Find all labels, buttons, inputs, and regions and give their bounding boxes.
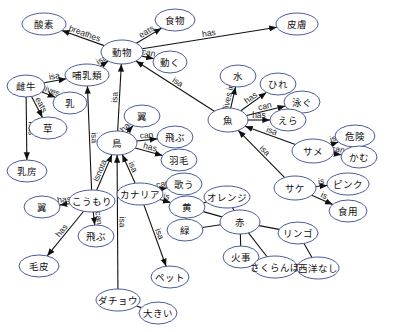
node-label: かむ	[349, 152, 369, 163]
node-label: 危険	[345, 131, 365, 142]
node-label: 食物	[165, 15, 185, 26]
edge-label: has	[201, 27, 216, 39]
node-kamu: かむ	[341, 146, 377, 168]
node-label: 飛ぶ	[86, 231, 106, 242]
node-pinku: ピンク	[327, 173, 369, 195]
node-koumori: こうもり	[69, 190, 115, 212]
node-label: さくらんぼ	[250, 262, 300, 273]
node-label: サケ	[285, 183, 305, 194]
edge-label: isa	[153, 227, 166, 241]
edge-label: isa	[109, 91, 120, 103]
node-label: ピンク	[333, 179, 363, 190]
node-dachou: ダチョウ	[96, 289, 140, 311]
edge-label: isnota	[91, 158, 109, 183]
node-label: 水	[233, 71, 243, 82]
node-kanaria: カナリア	[117, 183, 163, 205]
node-label: ひれ	[268, 79, 288, 90]
node-label: カナリア	[120, 189, 160, 200]
node-seiyounashi: 西洋なし	[297, 257, 339, 279]
node-orenji: オレンジ	[204, 186, 250, 208]
node-label: サメ	[303, 146, 323, 157]
node-aka: 赤	[220, 210, 260, 234]
node-honyurui: 哺乳類	[65, 64, 109, 86]
node-label: 毛皮	[29, 261, 49, 272]
edge-label: is	[318, 176, 325, 186]
edge-ki-aka	[203, 212, 222, 217]
node-label: 羽毛	[169, 155, 189, 166]
edge-label: breathes	[67, 23, 102, 44]
edge-line	[304, 243, 312, 257]
node-label: 泳ぐ	[292, 97, 312, 108]
node-label: 哺乳類	[72, 70, 102, 81]
node-label: オレンジ	[207, 192, 247, 203]
node-petto: ペット	[151, 266, 189, 288]
node-label: 動物	[112, 47, 132, 58]
node-label: 飛ぶ	[165, 132, 185, 143]
node-tori: 鳥	[97, 131, 137, 155]
node-label: 緑	[180, 225, 190, 236]
edge-label: isa	[126, 160, 140, 174]
node-hifu: 皮膚	[276, 13, 318, 35]
node-tobu1: 飛ぶ	[157, 126, 193, 148]
edge-label: is	[162, 191, 171, 202]
node-label: 黄	[182, 202, 192, 213]
node-nyubou: 乳房	[7, 160, 47, 182]
node-tsubasa1: 翼	[124, 105, 160, 127]
node-ringo: リンゴ	[278, 222, 318, 244]
edge-line	[203, 212, 222, 217]
node-doubutsu: 動物	[101, 40, 143, 64]
node-label: 赤	[235, 217, 245, 228]
node-ookii: 大きい	[139, 302, 177, 324]
node-label: リンゴ	[283, 228, 313, 239]
node-tsubasa2: 翼	[24, 196, 60, 218]
node-mizu: 水	[220, 65, 256, 87]
node-kusa: 草	[29, 117, 67, 139]
node-label: 皮膚	[287, 19, 307, 30]
edge-midori-aka	[203, 225, 221, 228]
nodes-layer: 酸素食物皮膚動物動く哺乳類雌牛乳草乳房水ひれ泳ぐ魚えら翼飛ぶ鳥羽毛危険サメかむカ…	[7, 9, 377, 324]
node-shokumotsu: 食物	[155, 9, 195, 31]
node-hire: ひれ	[260, 73, 296, 95]
edge-label: isa	[171, 75, 186, 89]
node-label: 火事	[231, 252, 251, 263]
edge-label: has	[252, 110, 266, 120]
edge-line	[259, 226, 279, 230]
node-label: えら	[278, 115, 298, 126]
node-label: 歌う	[174, 179, 194, 190]
node-sake: サケ	[274, 176, 316, 200]
node-utau: 歌う	[166, 173, 202, 195]
edge-label: has	[53, 222, 69, 239]
edge-ringo-seiyounashi	[304, 243, 312, 257]
node-kiken: 危険	[335, 125, 375, 147]
node-meushi: 雌牛	[7, 75, 45, 97]
edge-label: can	[139, 129, 154, 140]
edge-label: isa	[48, 70, 61, 82]
node-label: ダチョウ	[98, 295, 138, 306]
node-label: 雌牛	[16, 81, 36, 92]
node-ugoku: 動く	[153, 51, 187, 73]
node-label: 酸素	[34, 19, 54, 30]
edge-dachou-ookii	[136, 306, 141, 308]
node-label: 翼	[137, 111, 147, 122]
node-tobu2: 飛ぶ	[78, 225, 114, 247]
edge-aka-ringo	[259, 226, 279, 230]
node-umou: 羽毛	[161, 149, 197, 171]
node-label: 翼	[37, 202, 47, 213]
node-ki: 黄	[169, 196, 205, 218]
node-label: 草	[43, 123, 53, 134]
node-midori: 緑	[167, 219, 203, 241]
node-era: えら	[270, 109, 306, 131]
node-label: 乳	[65, 98, 75, 109]
node-sanso: 酸素	[22, 13, 66, 35]
node-label: 食用	[338, 206, 358, 217]
node-same: サメ	[292, 139, 334, 163]
node-label: 動く	[160, 57, 180, 68]
node-label: 乳房	[17, 166, 37, 177]
edge-label: isa	[117, 216, 127, 227]
node-label: 西洋なし	[298, 263, 338, 274]
node-label: こうもり	[72, 196, 112, 207]
edge-label: can	[93, 211, 105, 226]
edge-line	[203, 225, 221, 228]
node-label: 大きい	[143, 308, 173, 319]
node-label: 魚	[223, 115, 233, 126]
